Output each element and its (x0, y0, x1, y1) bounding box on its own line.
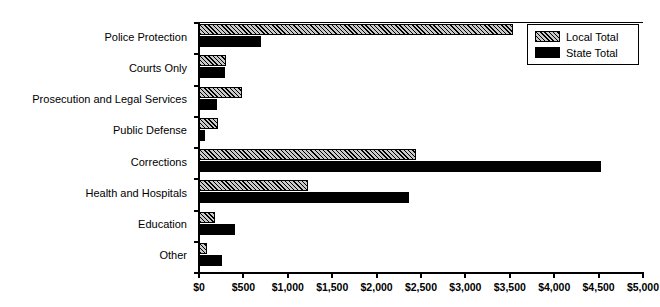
y-axis-label-4: Corrections (0, 157, 187, 168)
bar-state-2 (199, 99, 217, 110)
bar-chart: Police ProtectionCourts OnlyProsecution … (0, 0, 660, 307)
x-tick-label-10: $5,000 (627, 282, 659, 293)
bar-local-6 (199, 212, 215, 223)
x-tick-label-9: $4,500 (583, 282, 615, 293)
y-tick-3 (194, 116, 200, 118)
bar-local-3 (199, 118, 218, 129)
x-tick-label-1: $500 (232, 282, 255, 293)
bar-group-6 (199, 210, 643, 241)
x-tick-2 (287, 272, 289, 278)
bar-state-1 (199, 67, 225, 78)
bar-group-3 (199, 116, 643, 147)
bar-state-6 (199, 224, 235, 235)
x-tick-9 (598, 272, 600, 278)
y-tick-2 (194, 85, 200, 87)
bar-local-2 (199, 87, 242, 98)
x-tick-label-4: $2,000 (361, 282, 393, 293)
bar-state-4 (199, 161, 601, 172)
x-tick-label-6: $3,000 (449, 282, 481, 293)
y-axis-label-2: Prosecution and Legal Services (0, 94, 187, 105)
x-tick-3 (331, 272, 333, 278)
x-tick-10 (642, 272, 644, 278)
bar-group-4 (199, 147, 643, 178)
x-tick-label-5: $2,500 (405, 282, 437, 293)
y-tick-7 (194, 241, 200, 243)
x-tick-6 (464, 272, 466, 278)
y-tick-5 (194, 178, 200, 180)
bar-local-1 (199, 55, 226, 66)
legend-label-local-total: Local Total (566, 30, 618, 44)
bar-local-4 (199, 149, 416, 160)
x-tick-label-7: $3,500 (494, 282, 526, 293)
x-tick-label-3: $1,500 (316, 282, 348, 293)
bar-state-5 (199, 192, 409, 203)
y-tick-4 (194, 147, 200, 149)
y-axis-label-7: Other (0, 250, 187, 261)
bar-state-0 (199, 36, 261, 47)
legend-label-state-total: State Total (566, 46, 618, 60)
bar-local-0 (199, 24, 513, 35)
x-axis-tick-labels: $0$500$1,000$1,500$2,000$2,500$3,000$3,5… (0, 282, 660, 298)
x-tick-0 (198, 272, 200, 278)
bar-group-2 (199, 85, 643, 116)
legend-swatch-local-total (535, 31, 560, 42)
bar-local-5 (199, 180, 308, 191)
chart-legend: Local Total State Total (527, 24, 639, 65)
y-axis-category-labels: Police ProtectionCourts OnlyProsecution … (0, 22, 193, 272)
y-tick-6 (194, 210, 200, 212)
x-tick-8 (553, 272, 555, 278)
bar-group-5 (199, 178, 643, 209)
x-tick-label-2: $1,000 (272, 282, 304, 293)
x-tick-1 (242, 272, 244, 278)
bar-state-7 (199, 255, 222, 266)
bar-state-3 (199, 130, 205, 141)
y-axis-label-3: Public Defense (0, 125, 187, 136)
y-axis-label-1: Courts Only (0, 63, 187, 74)
y-axis-label-0: Police Protection (0, 32, 187, 43)
x-tick-7 (509, 272, 511, 278)
legend-swatch-state-total (535, 47, 560, 58)
x-tick-label-0: $0 (193, 282, 205, 293)
x-tick-4 (376, 272, 378, 278)
y-tick-0 (194, 22, 200, 24)
bar-group-7 (199, 241, 643, 272)
y-axis-label-5: Health and Hospitals (0, 188, 187, 199)
y-axis-label-6: Education (0, 219, 187, 230)
x-tick-5 (420, 272, 422, 278)
x-tick-label-8: $4,000 (538, 282, 570, 293)
y-tick-1 (194, 53, 200, 55)
bar-local-7 (199, 243, 207, 254)
